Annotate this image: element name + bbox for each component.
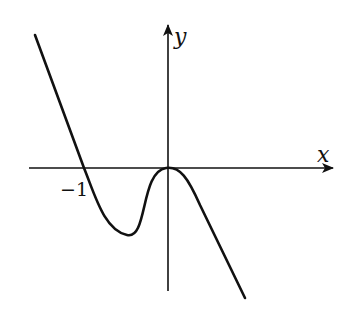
function-graph: y x −1 (0, 0, 351, 311)
x-axis-label: x (317, 142, 330, 167)
y-axis-label: y (173, 24, 187, 49)
function-curve (35, 35, 245, 298)
x-tick-label-neg1: −1 (60, 178, 88, 200)
